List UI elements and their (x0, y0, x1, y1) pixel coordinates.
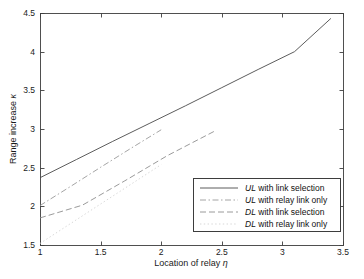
legend-item[interactable]: DL with link selection (194, 206, 340, 218)
legend-item[interactable]: UL with relay link only (194, 194, 340, 206)
series-line-3 (40, 165, 161, 244)
x-tick-label: 3.5 (337, 248, 349, 257)
legend-item[interactable]: UL with link selection (194, 182, 340, 194)
legend-entries: UL with link selectionUL with relay link… (194, 182, 340, 230)
legend-item[interactable]: DL with relay link only (194, 218, 340, 230)
x-axis-label-text: Location of relay (154, 258, 220, 268)
x-tick-label: 2 (159, 248, 164, 257)
legend-line-sample (199, 206, 239, 218)
legend-item-label: DL with relay link only (245, 220, 327, 229)
figure-canvas: 11.522.533.5 1.522.533.544.5 Location of… (0, 0, 364, 279)
legend-line-sample (199, 182, 239, 194)
legend-box: UL with link selectionUL with relay link… (193, 178, 341, 232)
y-axis-label-symbol: κ (8, 94, 18, 99)
x-axis-label-symbol: η (223, 258, 228, 268)
y-tick-label: 2.5 (0, 163, 35, 172)
legend-line-sample (199, 218, 239, 230)
legend-item-label: DL with link selection (245, 208, 324, 217)
x-axis-label: Location of relay η (154, 258, 228, 268)
series-line-2 (40, 131, 216, 218)
plot-area (0, 0, 364, 279)
x-tick-label: 3 (280, 248, 285, 257)
x-tick-label: 1 (38, 248, 43, 257)
y-axis-label-text: Range increase (8, 101, 18, 164)
y-tick-label: 4 (0, 47, 35, 56)
y-tick-label: 1.5 (0, 241, 35, 250)
y-tick-label: 4.5 (0, 9, 35, 18)
y-tick-label: 2 (0, 202, 35, 211)
legend-line-sample (199, 194, 239, 206)
series-line-0 (40, 18, 331, 177)
x-tick-label: 1.5 (95, 248, 107, 257)
legend-item-label: UL with link selection (245, 184, 324, 193)
x-tick-label: 2.5 (216, 248, 228, 257)
y-axis-label: Range increase κ (8, 94, 18, 164)
series-line-1 (40, 130, 161, 206)
legend-item-label: UL with relay link only (245, 196, 327, 205)
